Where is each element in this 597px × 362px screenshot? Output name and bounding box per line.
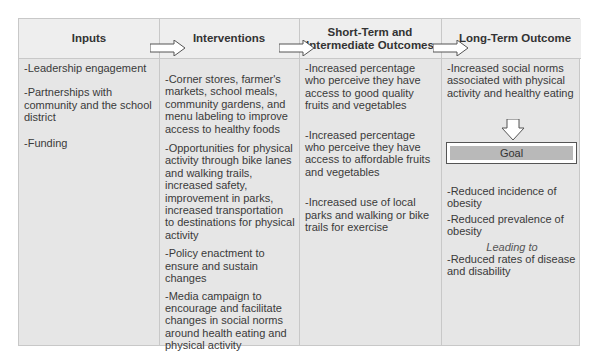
logic-model-table: Inputs Interventions Short-Term and Inte… <box>18 18 580 346</box>
list-item: -Reduced rates of disease and disability <box>447 253 577 278</box>
leading-to-label: Leading to <box>447 241 577 253</box>
arrow-right-icon <box>433 40 469 56</box>
goal-box: Goal <box>446 142 577 164</box>
list-item: -Increased use of local parks and walkin… <box>305 196 437 233</box>
column-short-term-outcomes: -Increased percentage who perceive they … <box>300 59 441 345</box>
header-short-term-outcomes: Short-Term and Intermediate Outcomes <box>299 19 441 59</box>
list-item: -Increased social norms associated with … <box>447 62 577 99</box>
list-item: -Opportunities for physical activity thr… <box>165 142 295 241</box>
list-item: -Increased percentage who perceive they … <box>305 62 437 112</box>
list-item: -Increased percentage who perceive they … <box>305 129 437 179</box>
header-inputs: Inputs <box>19 19 159 59</box>
list-item: -Leadership engagement <box>24 62 153 74</box>
goal-label: Goal <box>450 146 573 160</box>
column-interventions: -Corner stores, farmer's markets, school… <box>160 59 299 345</box>
list-item: -Funding <box>24 137 153 149</box>
list-item: -Corner stores, farmer's markets, school… <box>165 73 295 135</box>
list-item: -Policy enactment to ensure and sustain … <box>165 247 295 284</box>
arrow-right-icon <box>150 40 186 56</box>
arrow-down-icon <box>501 119 525 141</box>
list-item: -Media campaign to encourage and facilit… <box>165 290 295 352</box>
list-item: -Partnerships with community and the sch… <box>24 86 153 123</box>
arrow-right-icon <box>279 40 315 56</box>
column-long-term-outcome: -Increased social norms associated with … <box>442 59 581 345</box>
column-inputs: -Leadership engagement -Partnerships wit… <box>19 59 159 345</box>
list-item: -Reduced prevalence of obesity <box>447 213 577 238</box>
list-item: -Reduced incidence of obesity <box>447 185 577 210</box>
